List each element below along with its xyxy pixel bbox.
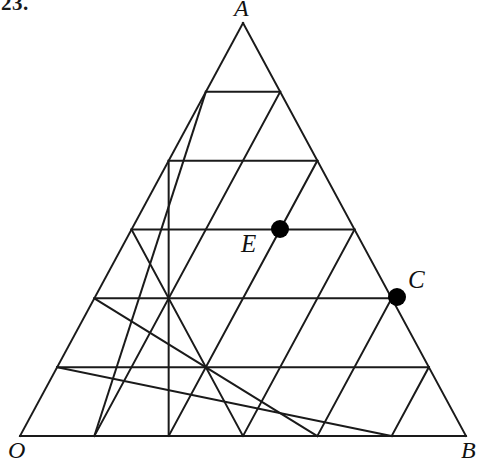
marked-point-e bbox=[271, 220, 289, 238]
vertex-label-b: B bbox=[461, 438, 476, 462]
point-label-c: C bbox=[408, 267, 425, 292]
marked-point-dots bbox=[271, 220, 406, 306]
vertex-label-a: A bbox=[234, 0, 249, 20]
marked-point-c bbox=[388, 288, 406, 306]
figure-page: 23. A O B E C bbox=[0, 0, 485, 466]
point-label-e: E bbox=[241, 231, 256, 256]
vertex-label-o: O bbox=[8, 438, 25, 462]
